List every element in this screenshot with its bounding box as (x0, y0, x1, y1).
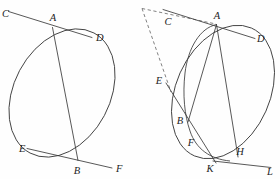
right-label-l: L (266, 166, 273, 177)
geometry-diagram: C A D E B F C A D E B F K H L (0, 0, 280, 179)
right-label-d: D (256, 33, 265, 44)
right-secant-e-k (166, 83, 216, 163)
left-label-a: A (49, 12, 57, 23)
left-label-d: D (95, 32, 104, 43)
right-figure-group: C A D E B F K H L (142, 9, 280, 178)
figure-canvas: C A D E B F C A D E B F K H L (0, 0, 280, 179)
right-label-k: K (205, 163, 214, 174)
left-label-b: B (74, 165, 81, 176)
right-label-b: B (177, 115, 184, 126)
right-chord-ah (217, 25, 239, 158)
left-label-f: F (115, 163, 123, 174)
right-label-e: E (155, 75, 163, 86)
left-label-e: E (18, 143, 26, 154)
right-tangent-line-cd (163, 10, 255, 39)
left-chord-ab (53, 28, 79, 161)
right-chord-ab (188, 25, 217, 123)
left-figure-group: C A D E B F (0, 8, 136, 176)
left-label-c: C (2, 8, 10, 19)
right-dashed-apex-to-a (142, 9, 216, 25)
right-label-f: F (187, 137, 195, 148)
right-label-a: A (213, 10, 221, 21)
right-label-h: H (235, 146, 245, 157)
right-tangent-line-kl (213, 161, 271, 168)
right-label-c: C (164, 16, 172, 27)
